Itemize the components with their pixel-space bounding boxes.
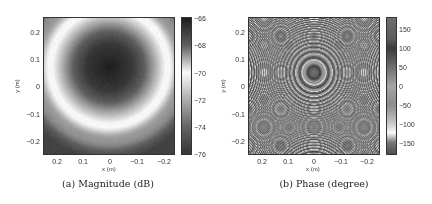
y-tick: 0.2 bbox=[225, 29, 245, 36]
x-tick: −0.1 bbox=[329, 158, 353, 165]
caption-magnitude: (a) Magnitude (dB) bbox=[0, 178, 216, 189]
colorbar-tick: −74 bbox=[194, 124, 206, 131]
y-tick: 0 bbox=[20, 83, 40, 90]
colorbar-tick: 150 bbox=[399, 26, 411, 33]
panel-magnitude: 0.2 0.1 0 −0.1 −0.2 0.2 0.1 0 −0.1 −0.2 … bbox=[0, 0, 216, 204]
y-tick: −0.1 bbox=[20, 111, 40, 118]
colorbar-tick: −50 bbox=[399, 102, 411, 109]
colorbar-tick: 100 bbox=[399, 45, 411, 52]
magnitude-heatmap bbox=[43, 17, 175, 155]
x-tick: 0.1 bbox=[276, 158, 300, 165]
panel-phase: 0.2 0.1 0 −0.1 −0.2 0.2 0.1 0 −0.1 −0.2 … bbox=[216, 0, 432, 204]
y-tick: 0 bbox=[225, 83, 245, 90]
y-tick: −0.2 bbox=[20, 138, 40, 145]
x-tick: 0.1 bbox=[71, 158, 95, 165]
y-tick: 0.1 bbox=[20, 56, 40, 63]
x-tick: −0.1 bbox=[125, 158, 149, 165]
x-tick: 0.2 bbox=[45, 158, 69, 165]
caption-phase: (b) Phase (degree) bbox=[216, 178, 432, 189]
y-tick: −0.2 bbox=[225, 138, 245, 145]
y-tick: 0.1 bbox=[225, 56, 245, 63]
x-tick: 0.2 bbox=[250, 158, 274, 165]
colorbar-tick: −68 bbox=[194, 42, 206, 49]
colorbar-tick: −70 bbox=[194, 70, 206, 77]
y-tick: 0.2 bbox=[20, 29, 40, 36]
x-axis-label: x (m) bbox=[102, 166, 116, 172]
x-tick: −0.2 bbox=[355, 158, 379, 165]
phase-heatmap bbox=[248, 17, 380, 155]
y-axis-label: y (m) bbox=[14, 79, 20, 93]
x-tick: −0.2 bbox=[152, 158, 176, 165]
x-tick: 0 bbox=[98, 158, 122, 165]
y-axis-label: y (m) bbox=[220, 79, 226, 93]
colorbar-tick: −150 bbox=[399, 140, 415, 147]
colorbar-tick: 50 bbox=[399, 64, 407, 71]
x-axis-label: x (m) bbox=[306, 166, 320, 172]
x-tick: 0 bbox=[302, 158, 326, 165]
colorbar-tick: −66 bbox=[194, 15, 206, 22]
phase-colorbar bbox=[386, 17, 397, 155]
colorbar-tick: −100 bbox=[399, 121, 415, 128]
magnitude-colorbar bbox=[181, 17, 192, 155]
y-tick: −0.1 bbox=[225, 111, 245, 118]
colorbar-tick: −76 bbox=[194, 151, 206, 158]
colorbar-tick: −72 bbox=[194, 97, 206, 104]
colorbar-tick: 0 bbox=[399, 83, 403, 90]
